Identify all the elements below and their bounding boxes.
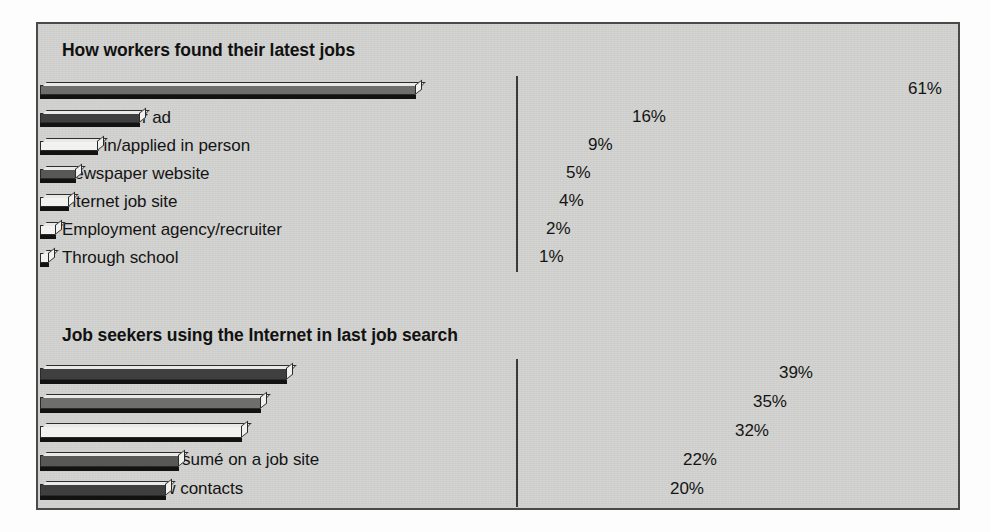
bar-body <box>40 368 287 380</box>
chart-1-value-label: 2% <box>546 219 570 239</box>
bar-top-face <box>43 365 297 369</box>
chart-1-bar <box>40 222 62 239</box>
chart-2-title: Job seekers using the Internet in last j… <box>62 325 458 346</box>
chart-row: Through school 1% <box>38 246 958 274</box>
bar-body <box>40 225 56 235</box>
bar-top-face <box>43 481 176 485</box>
chart-row: Newspaper website 5% <box>38 162 958 190</box>
bar-shadow <box>40 467 179 471</box>
chart-2-bar <box>40 452 185 471</box>
bar-top-face <box>43 110 150 114</box>
bar-body <box>40 113 140 123</box>
chart-1-category-label: Internet job site <box>62 192 177 212</box>
bar-shadow <box>40 179 76 183</box>
chart-1-bar <box>40 250 55 267</box>
chart-2-value-label: 22% <box>683 450 717 470</box>
bar-top-face <box>43 394 271 398</box>
chart-2-bar <box>40 481 172 500</box>
chart-row: To look for new contacts 20% <box>38 477 958 506</box>
bar-shadow <box>40 95 416 99</box>
chart-2-value-label: 20% <box>670 479 704 499</box>
chart-1-value-label: 61% <box>908 79 942 99</box>
chart-row: Employment agency/recruiter 2% <box>38 218 958 246</box>
bar-top-face <box>43 82 426 86</box>
chart-panel: How workers found their latest jobs Netw… <box>36 22 960 510</box>
bar-shadow <box>40 151 98 155</box>
chart-row: Newspaper ad 16% <box>38 106 958 134</box>
chart-2-value-label: 32% <box>735 421 769 441</box>
chart-2-bar <box>40 423 248 442</box>
bar-shadow <box>40 409 261 413</box>
bar-body <box>40 141 98 151</box>
chart-row: Networking/word of mouth 61% <box>38 78 958 106</box>
chart-1-value-label: 4% <box>559 191 583 211</box>
bar-shadow <box>40 380 287 384</box>
chart-2-bar <box>40 365 293 384</box>
chart-row: To place their résumé on a job site 22% <box>38 448 958 477</box>
chart-1-value-label: 5% <box>566 163 590 183</box>
bar-body <box>40 397 261 409</box>
chart-1-bar <box>40 194 75 211</box>
chart-2-value-label: 39% <box>779 363 813 383</box>
chart-1-bar <box>40 110 146 127</box>
bar-top-face <box>43 452 189 456</box>
chart-1-value-label: 16% <box>632 107 666 127</box>
bar-shadow <box>40 496 166 500</box>
bar-shadow <box>40 235 56 239</box>
bar-shadow <box>40 207 69 211</box>
chart-2-value-label: 35% <box>753 392 787 412</box>
chart-1-rows: Networking/word of mouth 61% Newspaper a… <box>38 78 958 274</box>
chart-1-title: How workers found their latest jobs <box>62 40 355 61</box>
chart-1-bar <box>40 166 82 183</box>
chart-row: To prepare for an interview 35% <box>38 390 958 419</box>
chart-2-rows: In any part of their job search 39% To p… <box>38 361 958 506</box>
chart-1-category-label: Through school <box>62 248 178 268</box>
bar-body <box>40 169 76 179</box>
chart-1-value-label: 1% <box>539 247 563 267</box>
bar-body <box>40 484 166 496</box>
chart-1-value-label: 9% <box>588 135 612 155</box>
chart-1-category-label: Employment agency/recruiter <box>62 220 282 240</box>
chart-2-bar <box>40 394 267 413</box>
chart-1-bar <box>40 138 104 155</box>
bar-shadow <box>40 438 242 442</box>
bar-body <box>40 426 242 438</box>
bar-body <box>40 197 69 207</box>
chart-row: Internet job site 4% <box>38 190 958 218</box>
bar-shadow <box>40 263 49 267</box>
bar-body <box>40 85 416 95</box>
bar-body <box>40 455 179 467</box>
chart-row: In any part of their job search 39% <box>38 361 958 390</box>
bar-shadow <box>40 123 140 127</box>
chart-row: To research industries 32% <box>38 419 958 448</box>
chart-row: Walk in/applied in person 9% <box>38 134 958 162</box>
chart-1-bar <box>40 82 422 99</box>
bar-top-face <box>43 423 252 427</box>
chart-page: How workers found their latest jobs Netw… <box>0 0 990 532</box>
